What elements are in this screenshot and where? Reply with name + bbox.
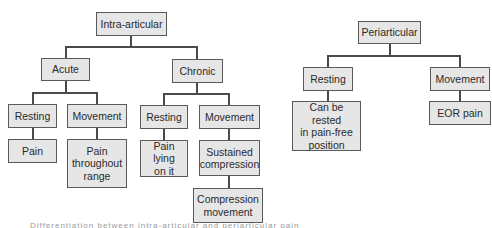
connector [459,90,461,101]
node-acute-movement-pain-range: Pain throughout range [67,139,127,188]
node-peri-resting-rested: Can be rested in pain-free position [292,101,361,151]
node-peri-movement-eor: EOR pain [429,101,491,125]
node-acute-resting: Resting [8,104,57,128]
connector [163,93,229,95]
node-chronic-resting: Resting [140,105,188,129]
connector [389,43,391,55]
connector [163,128,165,140]
connector [32,92,98,94]
node-peri-resting: Resting [303,67,353,91]
connector [32,92,34,104]
connector [327,55,329,67]
node-acute-resting-pain: Pain [8,139,57,163]
connector [327,55,461,57]
connector [196,82,198,93]
connector [327,90,329,101]
connector [228,175,230,188]
connector [163,93,165,105]
connector [228,129,230,140]
node-intra-articular: Intra-articular [96,12,167,36]
connector [96,92,98,104]
connector [459,55,461,67]
node-acute-movement: Movement [67,104,127,128]
node-chronic-movement-compression: Compression movement [193,188,263,223]
connector [96,127,98,139]
connector [65,80,67,92]
connector [196,46,198,60]
connector [32,127,34,139]
node-acute: Acute [41,58,90,81]
node-periarticular: Periarticular [358,21,421,44]
node-chronic-resting-pain-lying: Pain lying on it [140,140,188,177]
connector [65,46,67,58]
connector [65,46,198,48]
figure-caption: Differentiation between intra-articular … [30,221,300,228]
node-peri-movement: Movement [430,67,490,91]
node-chronic: Chronic [172,59,223,83]
node-chronic-movement-sustained: Sustained compression [199,140,260,176]
node-chronic-movement: Movement [199,105,260,129]
connector [228,93,230,105]
